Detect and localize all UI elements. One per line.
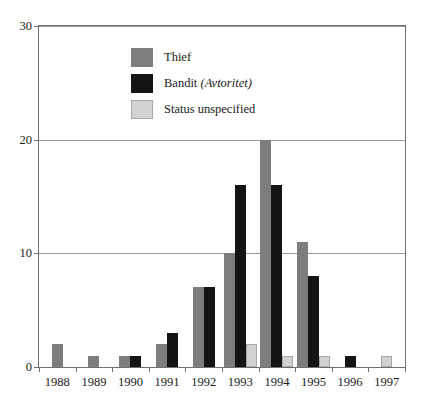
bar	[130, 356, 141, 367]
bar	[345, 356, 356, 367]
bar	[381, 356, 392, 367]
y-axis-tick-label: 10	[20, 247, 40, 260]
bar	[167, 333, 178, 367]
legend-item: Thief	[131, 44, 255, 70]
bar-chart: 0102030 19881989199019911992199319941995…	[0, 0, 429, 410]
x-axis-tick-label: 1989	[81, 376, 106, 389]
x-axis-tick-mark	[405, 367, 406, 372]
bar	[52, 344, 63, 367]
x-axis-tick-label: 1988	[45, 376, 70, 389]
bar-group	[39, 26, 76, 367]
bar-group	[259, 26, 296, 367]
bar	[193, 287, 204, 367]
legend-item: Status unspecified	[131, 96, 255, 122]
legend-swatch	[131, 100, 153, 119]
x-axis-tick-label: 1994	[264, 376, 289, 389]
x-axis-tick-label: 1995	[301, 376, 326, 389]
bar	[204, 287, 215, 367]
bar	[271, 185, 282, 367]
y-axis-tick-label: 30	[20, 20, 40, 33]
y-axis-tick-label: 20	[20, 133, 40, 146]
x-axis-tick-mark	[112, 367, 113, 372]
bar-group	[76, 26, 113, 367]
x-axis-tick-mark	[222, 367, 223, 372]
x-axis-tick-mark	[149, 367, 150, 372]
bar	[246, 344, 257, 367]
x-axis-tick-mark	[76, 367, 77, 372]
bar	[319, 356, 330, 367]
y-axis-tick-label: 0	[26, 361, 39, 374]
bar-group	[295, 26, 332, 367]
bar	[119, 356, 130, 367]
bar	[308, 276, 319, 367]
x-axis-tick-label: 1996	[338, 376, 363, 389]
legend-swatch	[131, 48, 153, 67]
bar-group	[332, 26, 369, 367]
x-axis-tick-label: 1990	[118, 376, 143, 389]
bar	[156, 344, 167, 367]
bar	[260, 140, 271, 367]
bar	[235, 185, 246, 367]
bar-group	[368, 26, 405, 367]
legend-label: Bandit (Avtoritet)	[164, 77, 252, 90]
bar	[224, 253, 235, 367]
plot-area: 0102030 19881989199019911992199319941995…	[38, 25, 406, 368]
bar	[297, 242, 308, 367]
bar	[88, 356, 99, 367]
x-axis-tick-mark	[39, 367, 40, 372]
x-axis-tick-label: 1993	[228, 376, 253, 389]
x-axis-tick-label: 1997	[374, 376, 399, 389]
x-axis-tick-mark	[185, 367, 186, 372]
legend-swatch	[131, 74, 153, 93]
chart-legend: ThiefBandit (Avtoritet)Status unspecifie…	[131, 44, 255, 122]
legend-label: Thief	[164, 51, 191, 64]
x-axis-tick-mark	[295, 367, 296, 372]
legend-item: Bandit (Avtoritet)	[131, 70, 255, 96]
x-axis-tick-label: 1992	[191, 376, 216, 389]
x-axis-tick-mark	[259, 367, 260, 372]
x-axis-tick-mark	[332, 367, 333, 372]
x-axis-tick-label: 1991	[155, 376, 180, 389]
bar	[282, 356, 293, 367]
legend-label: Status unspecified	[164, 103, 255, 116]
x-axis-tick-mark	[368, 367, 369, 372]
legend-label-alt: (Avtoritet)	[200, 76, 251, 90]
